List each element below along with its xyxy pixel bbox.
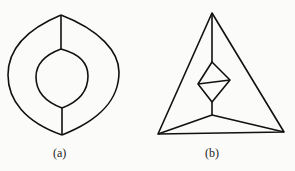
inner-left-arc [36,49,62,108]
figure-a-graph [8,15,119,135]
left-spoke [158,115,212,134]
right-spoke [212,115,284,132]
figure-b-label: (b) [205,146,219,161]
diagram-canvas [0,0,295,171]
inner-right-arc [61,49,88,108]
diamond-diagonal [198,80,230,84]
figure-b-graph [158,13,284,134]
outer-right-arc [61,15,119,135]
outer-left-arc [8,15,62,135]
figure-a-label: (a) [53,146,66,161]
outer-triangle [158,13,284,134]
